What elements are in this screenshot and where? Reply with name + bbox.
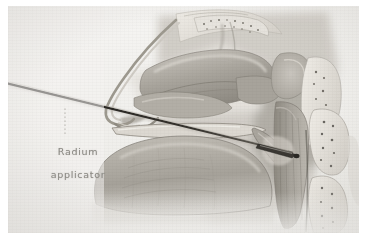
radium-applicator-label: Radium applicator xyxy=(36,134,120,192)
illustration-figure: Radium applicator xyxy=(0,0,368,244)
label-line-2: applicator xyxy=(36,169,120,181)
illustration-plate: Radium applicator xyxy=(8,6,359,233)
label-line-1: Radium xyxy=(36,146,120,158)
left-fade xyxy=(8,6,104,233)
anatomy-drawing xyxy=(8,6,359,233)
